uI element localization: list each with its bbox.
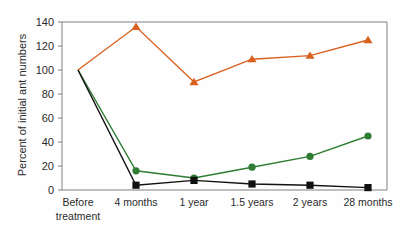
x-tick-label: 1 year [179, 196, 209, 208]
data-point-marker [131, 23, 140, 30]
x-tick-label: 28 months [343, 196, 392, 208]
series-green-series [78, 70, 372, 182]
axis-group [58, 22, 387, 190]
y-tick-label: 60 [42, 112, 54, 124]
y-tick-label: 100 [36, 64, 54, 76]
data-point-marker [248, 164, 255, 171]
data-series-group [78, 23, 373, 192]
data-point-marker [306, 153, 313, 160]
series-orange-series [78, 23, 373, 86]
y-tick-label: 0 [48, 184, 54, 196]
data-point-marker [364, 132, 371, 139]
y-tick-label: 120 [36, 40, 54, 52]
data-point-marker [132, 182, 139, 189]
x-tick-label: 2 years [293, 196, 327, 208]
y-tick-labels: 020406080100120140 [36, 16, 54, 196]
data-point-marker [132, 167, 139, 174]
x-tick-label: 1.5 years [230, 196, 273, 208]
x-tick-label-line2: treatment [56, 210, 100, 222]
y-tick-label: 20 [42, 160, 54, 172]
data-point-marker [363, 36, 372, 43]
data-point-marker [306, 182, 313, 189]
plot-frame [62, 22, 387, 190]
data-point-marker [364, 184, 371, 191]
y-tick-label: 80 [42, 88, 54, 100]
series-line [78, 27, 368, 82]
x-tick-label: 4 months [114, 196, 157, 208]
y-tick-label: 40 [42, 136, 54, 148]
series-black-series [78, 70, 372, 191]
x-tick-label: Before [63, 196, 94, 208]
data-point-marker [248, 180, 255, 187]
y-tick-label: 140 [36, 16, 54, 28]
chart-container: 020406080100120140 Beforetreatment4 mont… [0, 0, 407, 233]
y-axis-title: Percent of initial ant numbers [16, 33, 28, 176]
line-chart: 020406080100120140 Beforetreatment4 mont… [0, 0, 407, 233]
series-line [78, 70, 368, 188]
data-point-marker [190, 177, 197, 184]
series-line [78, 70, 368, 178]
x-tick-labels: Beforetreatment4 months1 year1.5 years2 … [56, 196, 393, 222]
